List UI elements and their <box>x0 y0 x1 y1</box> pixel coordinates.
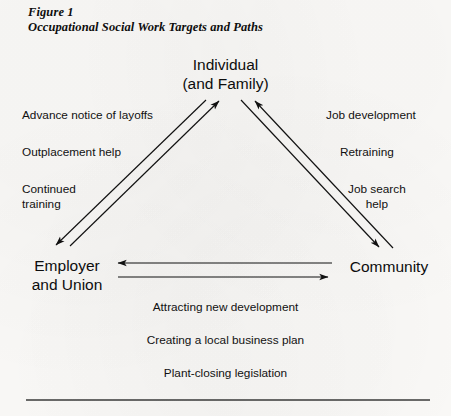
arrow-individual-to-community <box>241 100 379 247</box>
diagram-arrows <box>0 0 451 416</box>
figure-container: Figure 1 Occupational Social Work Target… <box>0 0 451 416</box>
arrow-employer-to-individual <box>70 101 219 246</box>
arrow-community-to-individual <box>255 101 393 248</box>
arrow-individual-to-employer <box>56 100 206 245</box>
